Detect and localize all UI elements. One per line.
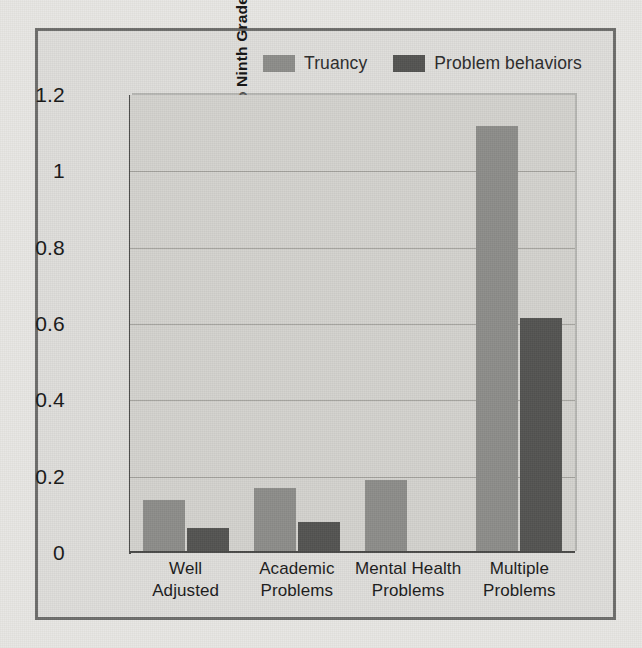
bar-truancy <box>365 480 407 553</box>
x-axis-label-3: MultipleProblems <box>464 558 575 602</box>
y-axis-tick-label: 1.2 <box>5 83 65 107</box>
legend-swatch-truancy <box>263 55 295 72</box>
bar-truancy <box>143 500 185 553</box>
bar-truancy <box>476 126 518 553</box>
y-axis-tick-label: 1 <box>5 159 65 183</box>
x-axis-label-line: Well <box>130 558 241 580</box>
x-axis-label-line: Adjusted <box>130 580 241 602</box>
x-axis-label-line: Mental Health <box>353 558 464 580</box>
bar-truancy <box>254 488 296 553</box>
y-axis-tick-label: 0.4 <box>5 388 65 412</box>
x-axis-label-2: Mental HealthProblems <box>353 558 464 602</box>
x-axis-baseline <box>130 551 575 553</box>
figure-frame: Truancy Problem behaviors Mean Increase … <box>35 28 616 620</box>
legend-entry-problem-behaviors: Problem behaviors <box>393 53 582 74</box>
x-axis-label-line: Academic <box>241 558 352 580</box>
legend-swatch-problem-behaviors <box>393 55 425 72</box>
bar-problem-behaviors <box>298 522 340 553</box>
x-axis-label-line: Multiple <box>464 558 575 580</box>
bar-problem-behaviors <box>520 318 562 553</box>
x-axis-label-line: Problems <box>241 580 352 602</box>
plot-area <box>130 95 575 553</box>
y-axis-tick-label: 0.2 <box>5 465 65 489</box>
legend-label-problem-behaviors: Problem behaviors <box>434 53 582 74</box>
y-axis-tick-label: 0.8 <box>5 236 65 260</box>
x-axis-label-0: WellAdjusted <box>130 558 241 602</box>
bar-problem-behaviors <box>187 528 229 553</box>
x-axis-label-1: AcademicProblems <box>241 558 352 602</box>
x-axis-category-labels: WellAdjustedAcademicProblemsMental Healt… <box>130 558 575 602</box>
legend-label-truancy: Truancy <box>304 53 367 74</box>
x-axis-label-line: Problems <box>464 580 575 602</box>
chart-legend: Truancy Problem behaviors <box>263 48 608 78</box>
y-axis-tick-label: 0.6 <box>5 312 65 336</box>
legend-entry-truancy: Truancy <box>263 53 367 74</box>
y-axis-tick-label: 0 <box>5 541 65 565</box>
x-axis-label-line: Problems <box>353 580 464 602</box>
